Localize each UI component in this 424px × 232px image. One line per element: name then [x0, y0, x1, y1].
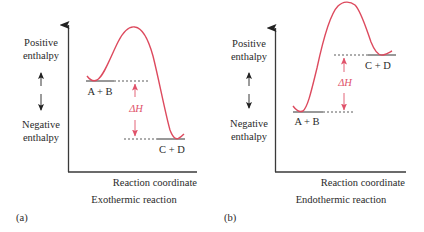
- panel-b-endothermic: Positive enthalpy Negative enthalpy ΔH A…: [224, 2, 406, 224]
- y-label-positive: Positive: [24, 37, 58, 48]
- products-label: C + D: [159, 144, 185, 155]
- y-label-enthalpy-bottom: enthalpy: [231, 131, 268, 142]
- y-label-enthalpy-top: enthalpy: [231, 51, 268, 62]
- delta-h-label: ΔH: [337, 77, 353, 88]
- reactants-label: A + B: [87, 86, 112, 97]
- x-axis-label: Reaction coordinate: [321, 177, 406, 188]
- y-label-negative: Negative: [230, 118, 268, 129]
- y-label-negative: Negative: [22, 119, 60, 130]
- x-axis-label: Reaction coordinate: [113, 177, 198, 188]
- panel-a-exothermic: Positive enthalpy Negative enthalpy ΔH A…: [16, 25, 197, 224]
- panel-title: Endothermic reaction: [296, 194, 387, 205]
- y-label-positive: Positive: [232, 38, 266, 49]
- y-label-enthalpy-top: enthalpy: [23, 50, 60, 61]
- products-label: C + D: [365, 60, 391, 71]
- y-label-enthalpy-bottom: enthalpy: [23, 132, 60, 143]
- reaction-curve: [87, 27, 184, 139]
- enthalpy-diagram-figure: Positive enthalpy Negative enthalpy ΔH A…: [0, 0, 424, 232]
- panel-label: (b): [224, 212, 237, 224]
- delta-h-label: ΔH: [128, 103, 144, 114]
- reaction-curve: [293, 2, 392, 112]
- panel-title: Exothermic reaction: [91, 194, 177, 205]
- panel-label: (a): [16, 212, 28, 224]
- reactants-label: A + B: [294, 116, 319, 127]
